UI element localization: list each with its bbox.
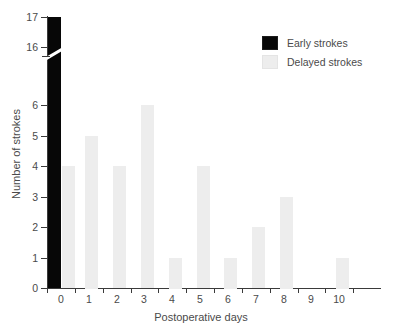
bar-delayed-day-2 (113, 166, 126, 288)
x-tick (214, 288, 215, 293)
bar-delayed-day-1 (85, 136, 98, 289)
bar-early-day-0 (48, 17, 61, 288)
legend-item-early: Early strokes (262, 33, 362, 52)
bar-delayed-day-8 (280, 197, 293, 289)
y-tick-label: 5 (32, 131, 38, 142)
x-tick-label: 0 (49, 294, 73, 305)
bar-delayed-day-6 (224, 258, 237, 289)
x-tick (158, 288, 159, 293)
x-tick-label: 9 (299, 294, 323, 305)
x-tick (242, 288, 243, 293)
chart-legend: Early strokes Delayed strokes (262, 33, 362, 71)
x-tick (186, 288, 187, 293)
y-tick-label: 17 (26, 12, 38, 23)
x-tick-label: 5 (188, 294, 212, 305)
y-tick-label: 2 (32, 222, 38, 233)
x-axis-title: Postoperative days (0, 311, 402, 323)
y-tick-label: 16 (26, 42, 38, 53)
legend-item-delayed: Delayed strokes (262, 52, 362, 71)
x-tick (103, 288, 104, 293)
bar-delayed-day-7 (252, 227, 265, 288)
legend-swatch-delayed-icon (262, 55, 278, 69)
x-tick (131, 288, 132, 293)
y-tick-label: 0 (32, 283, 38, 294)
bar-delayed-day-3 (141, 105, 154, 288)
x-tick-label: 6 (216, 294, 240, 305)
x-tick-label: 4 (160, 294, 184, 305)
bar-delayed-day-5 (197, 166, 210, 288)
bar-delayed-day-0 (62, 166, 75, 288)
x-tick (270, 288, 271, 293)
x-tick (75, 288, 76, 293)
y-tick-label: 6 (32, 100, 38, 111)
x-tick-label: 3 (132, 294, 156, 305)
x-tick-label: 8 (272, 294, 296, 305)
bar-delayed-day-4 (169, 258, 182, 289)
legend-swatch-early-icon (262, 36, 278, 50)
x-tick-label: 10 (327, 294, 351, 305)
stroke-timing-bar-chart: 01234561617 012345678910 Number of strok… (0, 0, 402, 331)
x-tick-label: 2 (105, 294, 129, 305)
y-tick-label: 1 (32, 253, 38, 264)
x-tick (47, 288, 48, 293)
x-tick-label: 1 (77, 294, 101, 305)
x-tick-label: 7 (244, 294, 268, 305)
y-axis-title: Number of strokes (10, 84, 22, 224)
bar-delayed-day-10 (336, 258, 349, 289)
legend-label-early: Early strokes (287, 37, 348, 49)
x-tick (298, 288, 299, 293)
x-tick (353, 288, 354, 293)
y-tick-label: 3 (32, 192, 38, 203)
x-tick (325, 288, 326, 293)
legend-label-delayed: Delayed strokes (287, 56, 362, 68)
y-tick-label: 4 (32, 161, 38, 172)
